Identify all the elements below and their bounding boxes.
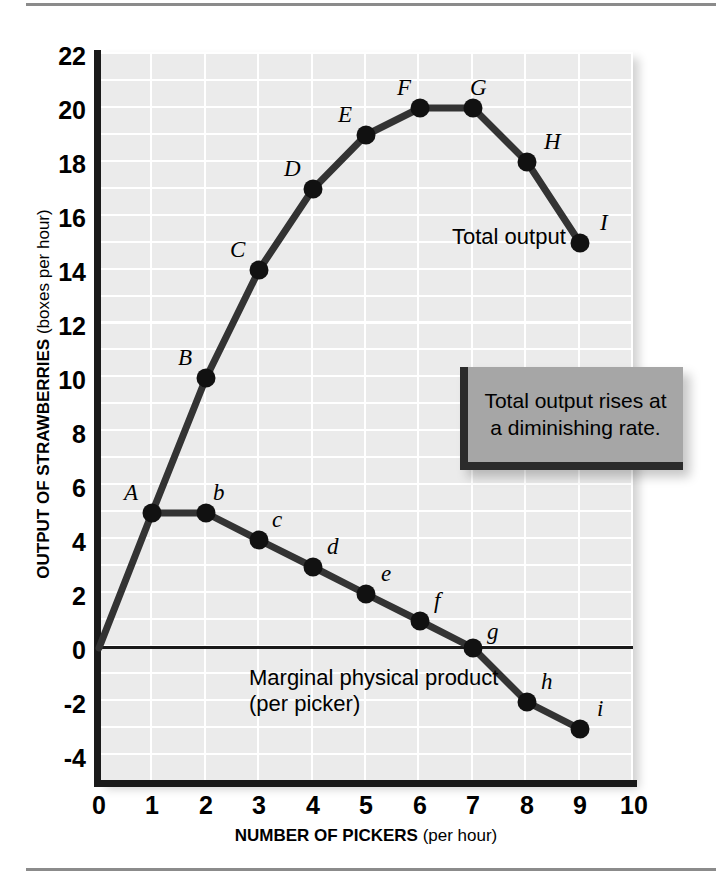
annotation-callout-text: Total output rises at a diminishing rate… xyxy=(478,388,672,441)
point-label-G: G xyxy=(470,76,487,99)
point-label-g: g xyxy=(487,620,499,643)
y-axis-title-bold: OUTPUT OF STRAWBERRIES xyxy=(34,339,53,579)
data-point-B xyxy=(197,369,216,388)
point-label-b: b xyxy=(213,481,225,504)
data-point-h xyxy=(518,693,537,712)
data-point-D xyxy=(304,180,323,199)
point-label-A: A xyxy=(124,481,138,504)
annotation-callout: Total output rises at a diminishing rate… xyxy=(460,367,683,470)
data-point-H xyxy=(518,153,537,172)
point-label-c: c xyxy=(272,508,282,531)
data-point-E xyxy=(357,126,376,145)
data-point-C xyxy=(250,261,269,280)
point-label-B: B xyxy=(178,346,192,369)
data-point-F xyxy=(411,99,430,118)
total-output-series-label: Total output xyxy=(452,224,566,250)
mpp-series-label-line1: Marginal physical product xyxy=(249,665,498,691)
point-label-I: I xyxy=(600,211,608,234)
y-axis-title-light: (boxes per hour) xyxy=(34,209,53,338)
point-label-H: H xyxy=(544,130,561,153)
point-label-F: F xyxy=(397,76,411,99)
data-point-b xyxy=(197,504,216,523)
point-label-d: d xyxy=(327,535,339,558)
point-label-D: D xyxy=(284,157,301,180)
data-point-e xyxy=(357,585,376,604)
point-label-e: e xyxy=(381,562,391,585)
data-point-i xyxy=(571,720,590,739)
x-axis-title-light: (per hour) xyxy=(418,826,497,845)
mpp-series-label-line2: (per picker) xyxy=(249,691,360,717)
x-axis-title-bold: NUMBER OF PICKERS xyxy=(235,826,418,845)
data-point-d xyxy=(304,558,323,577)
point-label-E: E xyxy=(338,103,352,126)
data-point-A xyxy=(143,504,162,523)
marginal-physical-product-curve xyxy=(152,513,580,729)
point-label-f: f xyxy=(434,589,440,612)
data-point-g xyxy=(464,639,483,658)
point-label-i: i xyxy=(597,697,603,720)
data-point-f xyxy=(411,612,430,631)
point-label-C: C xyxy=(230,238,245,261)
data-point-c xyxy=(250,531,269,550)
data-point-I xyxy=(571,234,590,253)
point-label-h: h xyxy=(541,670,553,693)
y-axis-title: OUTPUT OF STRAWBERRIES (boxes per hour) xyxy=(34,74,54,714)
figure-panel: 22 20 18 16 14 12 10 8 6 4 2 0 -2 -4 0 1… xyxy=(0,0,724,879)
data-point-G xyxy=(464,99,483,118)
x-axis-title: NUMBER OF PICKERS (per hour) xyxy=(99,826,633,846)
